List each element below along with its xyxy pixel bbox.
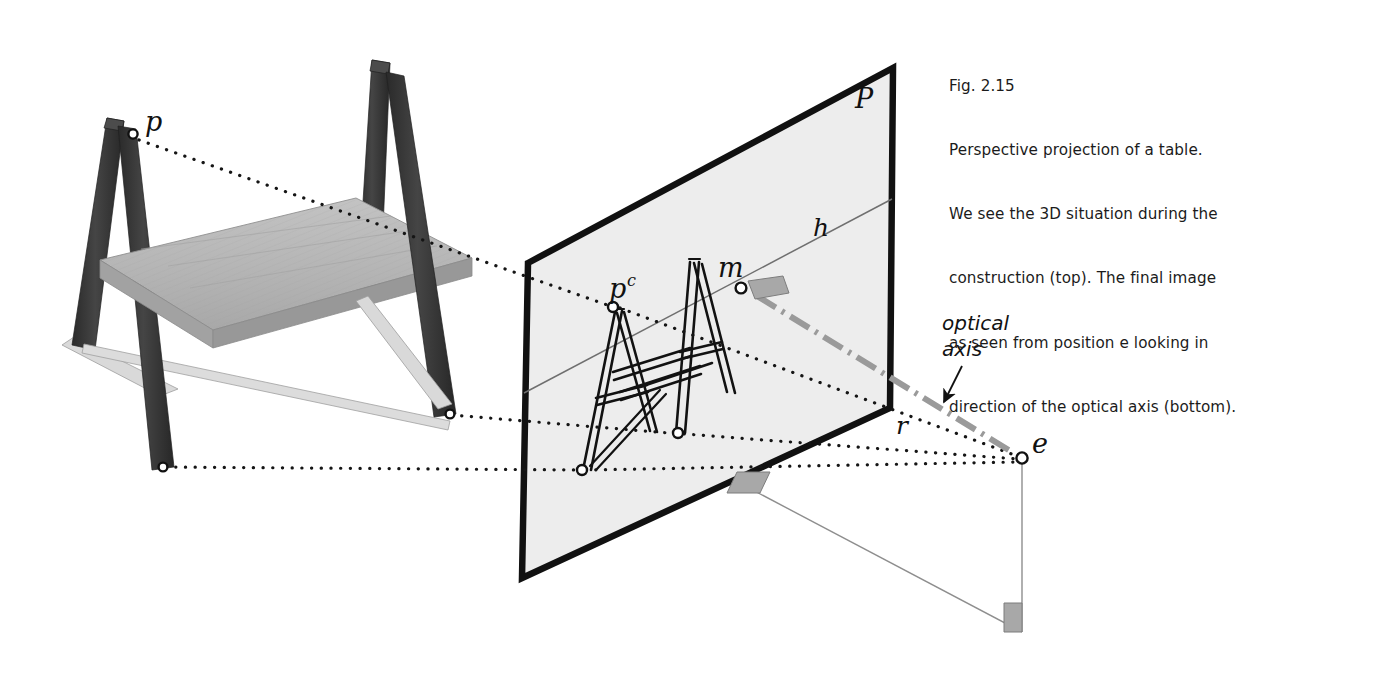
label-horizon-h: h [813,213,829,242]
marker-leg-right-bottom [446,410,455,419]
caption-line-2: We see the 3D situation during the [949,204,1359,225]
label-object-point-p: p [145,106,162,137]
caption-line-1: Perspective projection of a table. [949,140,1359,161]
table-brace-long [82,344,450,430]
label-radius-r: r [896,411,910,440]
ground-line [747,487,1022,632]
caption-line-0: Fig. 2.15 [949,76,1359,97]
ground-construction-lines [727,460,1022,632]
caption-line-4: as seen from position e looking in [949,333,1359,354]
caption-line-3: construction (top). The final image [949,268,1359,289]
marker-p [128,129,137,138]
marker-pc-base-right [673,428,683,438]
table-leg-back-left [72,118,124,350]
trestle-table-3d [62,60,472,470]
projection-plane [522,68,893,578]
figure-container: P h p p c m r e optical axis Fig. 2.15 P… [0,0,1387,685]
label-pc-superscript: c [627,271,636,290]
marker-pc-base-left [577,465,587,475]
figure-caption: Fig. 2.15 Perspective projection of a ta… [949,33,1359,461]
ray-bottom [166,467,583,470]
marker-leg-left-bottom [159,463,168,472]
caption-line-5: direction of the optical axis (bottom). [949,397,1359,418]
label-pc-base: p [609,273,626,304]
label-plane-P: P [854,83,874,114]
right-angle-marker-ground [1004,603,1022,632]
marker-m [736,283,747,294]
label-principal-point-m: m [718,252,744,283]
